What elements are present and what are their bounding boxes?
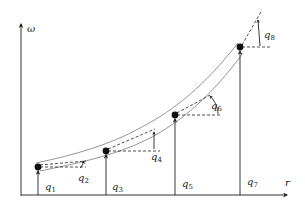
y-axis-label: ω [27, 23, 35, 34]
label-q1: q1 [45, 181, 56, 194]
joint-dot-7 [237, 44, 244, 51]
label-q8: q8 [264, 29, 275, 42]
joint-dot-1 [35, 164, 42, 171]
dashed-references [40, 10, 270, 167]
joint-arrows [38, 51, 240, 195]
label-q7: q7 [247, 176, 258, 189]
label-q3: q3 [112, 181, 123, 194]
joint-dot-5 [172, 112, 179, 119]
p5-link-dir [177, 95, 210, 113]
label-q6: q6 [211, 100, 222, 113]
axes: ω r [21, 23, 291, 196]
x-axis-label: r [285, 177, 291, 188]
label-q2: q2 [78, 172, 89, 185]
label-q4: q4 [151, 151, 162, 164]
angle-arrows [80, 20, 260, 168]
q8-arrow [258, 20, 260, 46]
tube-lower-curve [40, 53, 243, 171]
label-q5: q5 [182, 178, 193, 191]
p1-link-dir [40, 161, 86, 165]
joint-dot-3 [103, 148, 110, 155]
tube-upper-curve [36, 43, 238, 163]
kinematic-chain-diagram: ω r q1 [0, 0, 305, 209]
